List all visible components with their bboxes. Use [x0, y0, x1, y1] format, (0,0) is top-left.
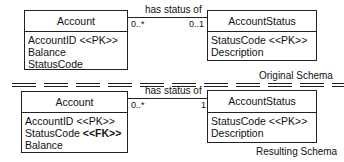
- left-multiplicity: 0..*: [131, 100, 145, 110]
- entity-attributes: StatusCode <<PK>> Description: [208, 32, 316, 60]
- entity-attributes: AccountID <<PK>> Balance StatusCode: [25, 32, 127, 72]
- attribute: StatusCode: [28, 58, 124, 70]
- entity-title: AccountStatus: [208, 91, 316, 113]
- attribute: Balance: [28, 46, 124, 58]
- entity-attributes: StatusCode <<PK>> Description: [208, 113, 316, 141]
- association-label: has status of: [145, 4, 202, 15]
- attribute: Description: [211, 127, 313, 139]
- left-multiplicity: 0..*: [131, 19, 145, 29]
- original-schema-caption: Original Schema: [259, 70, 333, 81]
- attribute: AccountID <<PK>>: [28, 34, 124, 46]
- association-line: [128, 98, 208, 99]
- attribute: StatusCode <<PK>>: [211, 34, 313, 46]
- resulting-accountstatus-entity[interactable]: AccountStatus StatusCode <<PK>> Descript…: [207, 90, 317, 143]
- entity-attributes: AccountID <<PK>> StatusCode <<FK>> Balan…: [22, 113, 127, 153]
- resulting-schema-caption: Resulting Schema: [256, 146, 337, 157]
- right-multiplicity: 0..1: [189, 19, 204, 29]
- entity-title: AccountStatus: [208, 11, 316, 32]
- right-multiplicity: 1: [201, 100, 206, 110]
- association-line: [128, 17, 208, 18]
- attribute: StatusCode <<PK>>: [211, 115, 313, 127]
- original-account-entity[interactable]: Account AccountID <<PK>> Balance StatusC…: [24, 10, 128, 70]
- attribute: Description: [211, 46, 313, 58]
- attribute-foreign-key: StatusCode <<FK>>: [25, 127, 124, 139]
- association-label: has status of: [145, 85, 202, 96]
- original-accountstatus-entity[interactable]: AccountStatus StatusCode <<PK>> Descript…: [207, 10, 317, 61]
- attribute: Balance: [25, 139, 124, 151]
- attribute: AccountID <<PK>>: [25, 115, 124, 127]
- resulting-account-entity[interactable]: Account AccountID <<PK>> StatusCode <<FK…: [21, 91, 128, 153]
- entity-title: Account: [25, 11, 127, 32]
- entity-title: Account: [22, 92, 127, 113]
